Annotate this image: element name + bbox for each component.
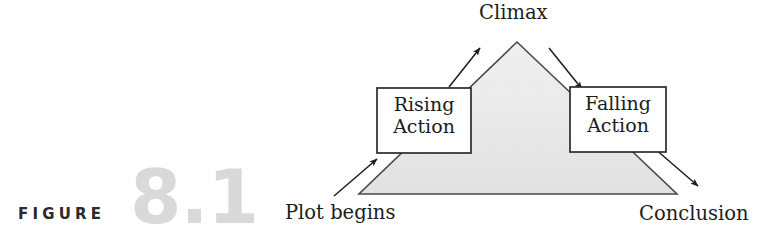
falling-action-line-1: Falling [570,92,666,114]
falling-action-label: Falling Action [570,92,666,137]
falling-action-line-2: Action [570,114,666,136]
figure-root: Climax Plot begins Conclusion Rising Act… [0,0,766,237]
rising-action-line-1: Rising [377,93,471,115]
climax-label: Climax [479,2,548,23]
figure-caption-number: 8.1 [130,160,258,234]
plot-begins-label: Plot begins [285,202,395,223]
rising-action-line-2: Action [377,115,471,137]
figure-caption-word: FIGURE [18,207,105,222]
conclusion-label: Conclusion [639,203,748,224]
figure-caption: FIGURE 8.1 [14,150,254,230]
rising-action-label: Rising Action [377,93,471,138]
